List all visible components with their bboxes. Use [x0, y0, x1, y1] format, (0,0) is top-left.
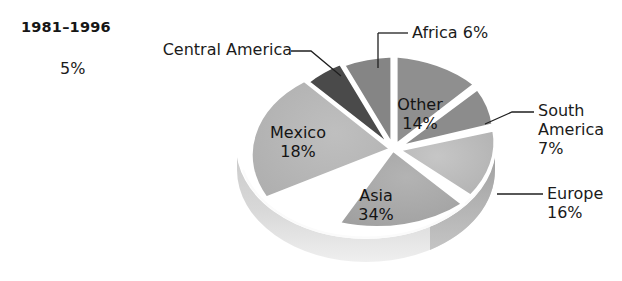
slice-label-asia: Asia 34% [340, 186, 412, 224]
slice-label-other-value: 14% [383, 114, 457, 133]
slice-label-asia-name: Asia [340, 186, 412, 205]
slice-label-other: Other 14% [383, 95, 457, 133]
callout-south-america-line2: America [538, 120, 604, 139]
slice-label-mexico-value: 18% [257, 142, 339, 161]
slice-label-other-name: Other [383, 95, 457, 114]
slice-label-mexico: Mexico 18% [257, 123, 339, 161]
callout-central-america-name: Central America [60, 40, 292, 59]
callout-central-america: Central America 5% [60, 40, 292, 78]
callout-central-america-value: 5% [60, 59, 292, 78]
slice-label-asia-value: 34% [340, 205, 412, 224]
callout-south-america-value: 7% [538, 139, 604, 158]
callout-south-america-line1: South [538, 101, 604, 120]
pie-chart-figure: 1981–1996 [0, 0, 622, 281]
callout-africa: Africa 6% [412, 23, 488, 42]
slice-label-mexico-name: Mexico [257, 123, 339, 142]
callout-europe-value: 16% [547, 203, 603, 222]
callout-europe-line1: Europe [547, 184, 603, 203]
callout-south-america: South America 7% [538, 101, 604, 158]
callout-europe: Europe 16% [547, 184, 603, 222]
callout-africa-text: Africa 6% [412, 23, 488, 42]
